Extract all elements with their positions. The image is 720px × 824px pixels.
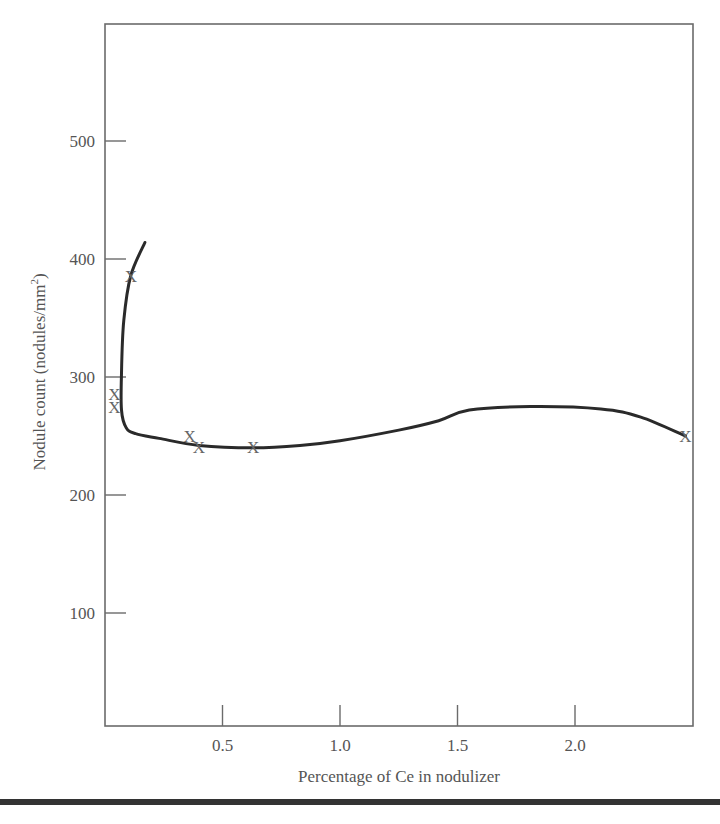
y-axis-title-main: Nodule count (nodules/mm (30, 285, 49, 471)
y-tick-label: 200 (70, 486, 96, 505)
data-point-marker: X (125, 267, 137, 286)
y-axis-title-close-paren: ) (30, 273, 49, 279)
data-point-marker: X (193, 438, 205, 457)
plot-frame (105, 24, 693, 726)
x-tick-label: 1.0 (329, 736, 350, 755)
x-axis-title: Percentage of Ce in nodulizer (298, 767, 500, 786)
figure-bottom-rule (0, 799, 720, 805)
x-tick-label: 0.5 (212, 736, 233, 755)
y-axis-ticks: 100200300400500 (70, 132, 127, 623)
x-axis-ticks: 0.51.01.52.0 (212, 705, 586, 755)
y-tick-label: 300 (70, 368, 96, 387)
x-tick-label: 1.5 (447, 736, 468, 755)
y-tick-label: 400 (70, 250, 96, 269)
data-point-marker: X (247, 438, 259, 457)
data-point-marker: X (679, 427, 691, 446)
y-axis-title: Nodule count (nodules/mm2) (28, 273, 49, 470)
chart-figure: 100200300400500 0.51.01.52.0 XXXXXXX Nod… (0, 0, 720, 824)
chart-canvas: 100200300400500 0.51.01.52.0 XXXXXXX Nod… (0, 0, 720, 824)
y-tick-label: 100 (70, 604, 96, 623)
data-markers: XXXXXXX (108, 267, 691, 457)
y-tick-label: 500 (70, 132, 96, 151)
trend-curve (121, 243, 685, 448)
data-point-marker: X (108, 398, 120, 417)
x-tick-label: 2.0 (564, 736, 585, 755)
